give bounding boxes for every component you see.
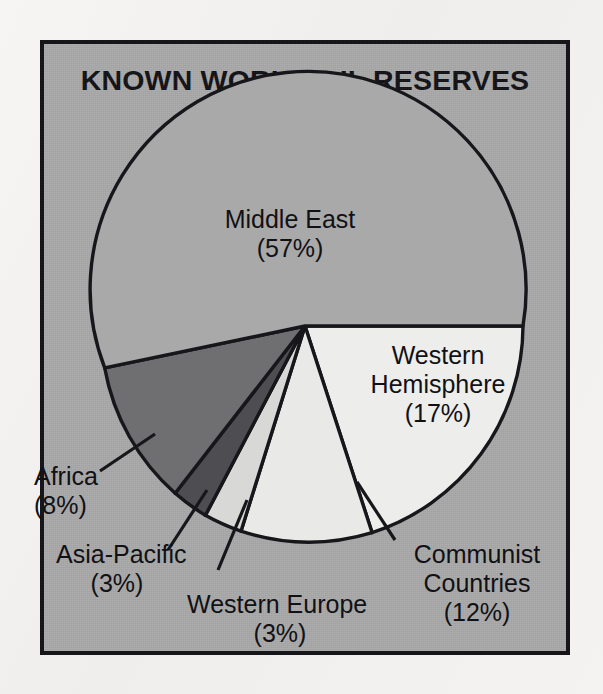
slice-label-western-europe: Western Europe xyxy=(187,590,367,618)
slice-label-asia-pacific: Asia-Pacific xyxy=(56,540,187,568)
slice-value-asia-pacific: (3%) xyxy=(91,569,144,597)
slice-label-communist-countries-2: Countries xyxy=(424,569,531,597)
page-background: KNOWN WORLD OIL RESERVES Middle East (57… xyxy=(0,0,603,694)
slice-label-western-hemisphere: Western xyxy=(392,341,485,369)
slice-label-western-hemisphere-2: Hemisphere xyxy=(371,370,506,398)
slice-label-communist-countries: Communist xyxy=(414,540,540,568)
slice-label-africa: Africa xyxy=(34,462,98,490)
slice-value-western-europe: (3%) xyxy=(254,619,307,647)
slice-label-middle-east: Middle East xyxy=(225,205,356,233)
slice-value-communist-countries: (12%) xyxy=(444,598,511,626)
pie-chart: Middle East (57%) Western Hemisphere (17… xyxy=(0,0,603,694)
slice-value-africa: (8%) xyxy=(34,491,87,519)
slice-value-middle-east: (57%) xyxy=(257,234,324,262)
slice-value-western-hemisphere: (17%) xyxy=(405,399,472,427)
